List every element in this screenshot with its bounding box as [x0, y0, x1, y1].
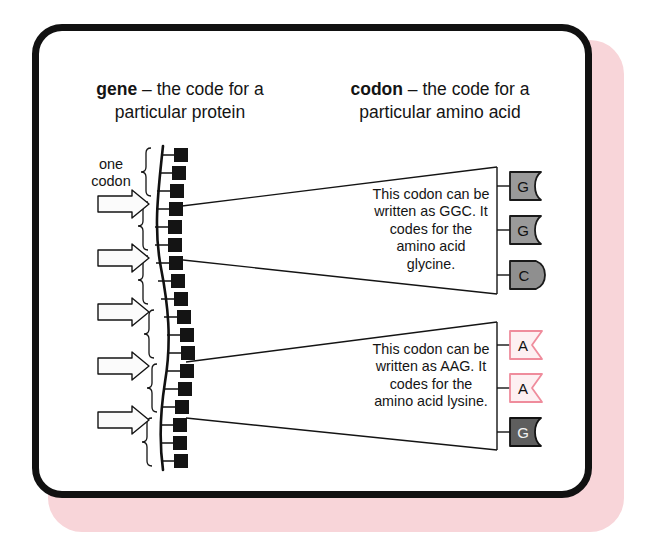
callout-base-stubs-lysine: [497, 345, 510, 432]
callout-wedge-lysine: [186, 322, 497, 450]
dna-base-squares: [168, 148, 195, 468]
codon-pointer-arrow: [98, 406, 149, 434]
codon-pointer-arrow: [98, 244, 149, 272]
base-letter-g-2: G: [514, 222, 532, 239]
base-letter-a-1: A: [514, 337, 532, 354]
figure-page: gene – the code for a particular protein…: [0, 0, 646, 546]
dna-backbone: [157, 146, 169, 470]
callout-wedge-glycine: [182, 167, 497, 294]
callout-base-stubs-glycine: [497, 186, 510, 275]
base-letter-g-1: G: [514, 178, 532, 195]
base-letter-g-3: G: [514, 424, 532, 441]
codon-pointer-arrow: [98, 352, 149, 380]
codon-pointer-arrow: [98, 190, 149, 218]
base-letter-a-2: A: [514, 380, 532, 397]
codon-pointer-arrow: [98, 298, 149, 326]
figure-artwork: [0, 0, 646, 546]
base-letter-c-1: C: [515, 267, 533, 284]
